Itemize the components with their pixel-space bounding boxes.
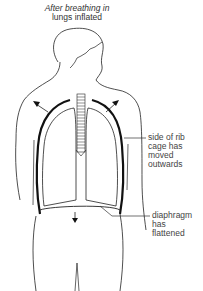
right-lung (86, 108, 118, 206)
left-lung (43, 108, 77, 206)
diaphragm-leader-line (100, 206, 150, 216)
diaphragm (40, 206, 120, 210)
left-rib-cage (37, 100, 70, 214)
leg-divide-line (75, 263, 79, 291)
rib-cage-label-line: outwards (148, 160, 185, 169)
left-arm-line (33, 140, 34, 205)
trachea (76, 94, 86, 156)
rib-cage-label: side of rib cage has moved outwards (148, 133, 185, 169)
head-outline (54, 28, 104, 80)
right-rib-cage (92, 100, 123, 214)
arrow-down-icon (72, 212, 78, 223)
hair-line (70, 42, 102, 68)
left-hip-outline (33, 216, 36, 291)
right-hip-outline (120, 214, 123, 291)
arrow-up-outward-icon (106, 100, 119, 112)
arrow-up-outward-icon (33, 101, 48, 112)
diaphragm-label: diaphragm has flattened (152, 211, 192, 238)
right-arm-line (127, 144, 128, 190)
diaphragm-label-line: flattened (152, 229, 192, 238)
